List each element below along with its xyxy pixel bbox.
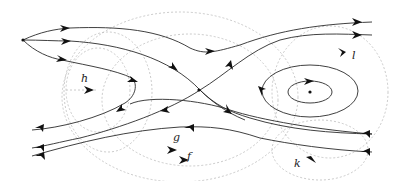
arrow-icon (225, 60, 233, 70)
flow-lines (23, 22, 372, 156)
label-k: k (294, 157, 301, 170)
saddle-inflow-bottom (200, 90, 245, 120)
flow-line-3 (23, 40, 135, 130)
arrow-icon (184, 124, 194, 132)
saddle-point (197, 88, 200, 91)
saddle-outflow-right (200, 34, 372, 90)
dashed-circles (62, 12, 388, 181)
flow-line-bottom-1 (130, 99, 372, 134)
arrow-icon (258, 86, 266, 96)
label-f: f (186, 150, 193, 163)
arrow-icon (352, 31, 362, 39)
flow-line-1 (23, 22, 372, 52)
arrow-icon (167, 146, 177, 154)
source-point (21, 38, 24, 41)
arrow-icon (35, 144, 44, 152)
label-h: h (81, 72, 88, 85)
circle-k (272, 120, 368, 180)
arrow-icon (35, 152, 45, 160)
phase-portrait-diagram: h g f k l (0, 0, 394, 181)
arrow-icon (338, 48, 346, 57)
label-l: l (352, 49, 356, 62)
arrow-icon (35, 124, 44, 132)
label-g: g (173, 131, 180, 144)
arrow-icon (352, 18, 362, 26)
arrow-icon (61, 38, 71, 45)
center-point (308, 90, 311, 93)
arrow-icon (361, 148, 370, 156)
circle-l (272, 26, 388, 158)
arrow-icon (84, 86, 94, 94)
arrow-icon (306, 156, 316, 163)
arrow-icon (361, 130, 370, 138)
